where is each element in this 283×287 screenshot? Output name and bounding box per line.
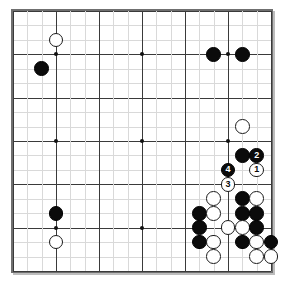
grid-line-v [99,11,100,271]
go-board-grid[interactable]: 2143 [11,9,273,273]
black-stone[interactable] [264,235,279,250]
star-point [140,226,144,230]
black-stone[interactable] [235,206,250,221]
grid-line-v [42,11,43,271]
grid-line-v [271,11,272,271]
black-stone[interactable] [192,235,207,250]
star-point [140,139,144,143]
move-stone-2[interactable]: 2 [249,148,264,163]
white-stone[interactable] [49,33,64,48]
star-point [54,52,58,56]
black-stone[interactable] [192,220,207,235]
white-stone[interactable] [235,119,250,134]
grid-line-v [85,11,86,271]
grid-line-h [13,271,271,272]
white-stone[interactable] [206,235,221,250]
move-number-label: 3 [222,178,235,191]
star-point [54,226,58,230]
grid-line-v [113,11,114,271]
white-stone[interactable] [206,206,221,221]
white-stone[interactable] [49,235,64,250]
grid-line-v [171,11,172,271]
move-number-label: 1 [250,164,263,177]
move-number-label: 4 [222,164,235,177]
black-stone[interactable] [49,206,64,221]
black-stone[interactable] [235,47,250,62]
star-point [54,139,58,143]
black-stone[interactable] [235,148,250,163]
star-point [226,52,230,56]
black-stone[interactable] [235,235,250,250]
grid-line-v [156,11,157,271]
grid-line-v [185,11,186,271]
grid-line-v [27,11,28,271]
black-stone[interactable] [192,206,207,221]
black-stone[interactable] [249,220,264,235]
move-stone-3[interactable]: 3 [221,177,236,192]
white-stone[interactable] [249,249,264,264]
grid-line-v [128,11,129,271]
white-stone[interactable] [264,249,279,264]
grid-line-v [70,11,71,271]
star-point [140,52,144,56]
white-stone[interactable] [221,220,236,235]
go-diagram: 2143 [0,0,283,287]
grid-line-v [13,11,14,271]
white-stone[interactable] [249,191,264,206]
move-number-label: 2 [250,149,263,162]
move-stone-4[interactable]: 4 [221,163,236,178]
white-stone[interactable] [206,249,221,264]
star-point [226,139,230,143]
white-stone[interactable] [206,191,221,206]
black-stone[interactable] [34,61,49,76]
move-stone-1[interactable]: 1 [249,163,264,178]
white-stone[interactable] [249,235,264,250]
black-stone[interactable] [235,191,250,206]
black-stone[interactable] [206,47,221,62]
white-stone[interactable] [235,220,250,235]
black-stone[interactable] [249,206,264,221]
